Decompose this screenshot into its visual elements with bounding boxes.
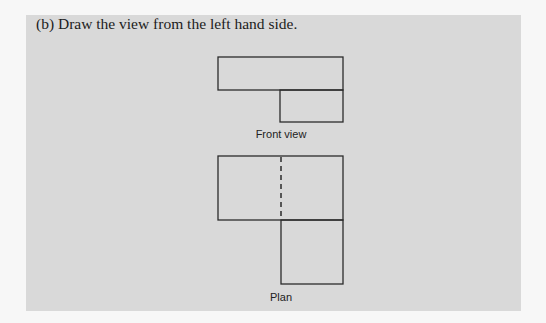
plan-label: Plan xyxy=(270,291,292,303)
front-view-label: Front view xyxy=(256,128,307,140)
plan-figure xyxy=(218,156,343,284)
front-view-bottom-block xyxy=(280,90,343,122)
front-view-figure xyxy=(218,57,343,122)
technical-drawing xyxy=(0,0,546,323)
front-view-top-block xyxy=(218,57,343,90)
plan-bottom-block xyxy=(281,220,343,284)
